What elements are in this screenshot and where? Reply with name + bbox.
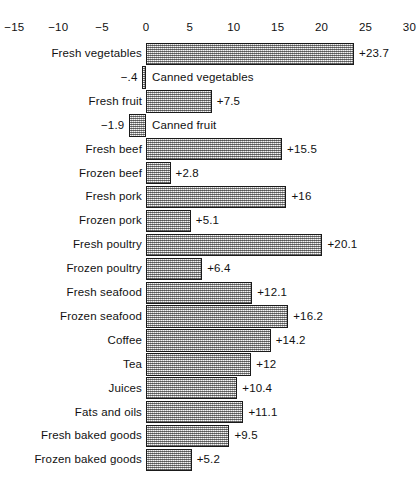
x-axis-tick-labels: −15−10−5051015202530 [0, 20, 420, 36]
category-label: Juices [109, 377, 143, 401]
category-label: Tea [123, 353, 142, 377]
bar [146, 282, 252, 304]
value-label: +23.7 [359, 42, 389, 66]
bar-chart: −15−10−5051015202530 Fresh vegetables+23… [0, 0, 420, 494]
category-label: Fresh beef [86, 138, 142, 162]
category-label: Fresh seafood [67, 281, 142, 305]
bar-row: Frozen pork+5.1 [0, 209, 420, 233]
bar-row: Frozen poultry+6.4 [0, 257, 420, 281]
category-label: Fresh baked goods [41, 424, 142, 448]
value-label: +14.2 [276, 329, 306, 353]
bar [146, 234, 322, 256]
category-label: Fresh pork [86, 185, 142, 209]
bar [146, 162, 171, 184]
bar-row: Tea+12 [0, 353, 420, 377]
category-label: Fats and oils [75, 401, 142, 425]
bar [146, 90, 212, 112]
bar [146, 305, 288, 327]
bar [146, 377, 237, 399]
bar-row: Fresh poultry+20.1 [0, 233, 420, 257]
x-axis-tick-neg5: −5 [95, 20, 109, 34]
x-axis-tick-10: 10 [227, 20, 240, 34]
bar [146, 138, 282, 160]
value-label: +15.5 [287, 138, 317, 162]
value-label: +16.2 [293, 305, 323, 329]
bar-row: Fats and oils+11.1 [0, 401, 420, 425]
value-label: −.4 [121, 66, 138, 90]
x-axis-tick-neg10: −10 [48, 20, 68, 34]
category-label: Frozen pork [79, 209, 142, 233]
bar [146, 449, 192, 471]
value-label: +11.1 [248, 401, 277, 425]
bar-row: Coffee+14.2 [0, 329, 420, 353]
value-label: +9.5 [234, 424, 257, 448]
value-label: +16 [291, 185, 311, 209]
bar-row: Fresh vegetables+23.7 [0, 42, 420, 66]
plot-area: Fresh vegetables+23.7Canned vegetables−.… [0, 42, 420, 472]
bar [146, 329, 271, 351]
value-label: +2.8 [176, 162, 199, 186]
x-axis-tick-15: 15 [271, 20, 284, 34]
value-label: +6.4 [207, 257, 230, 281]
category-label: Canned vegetables [152, 66, 254, 90]
value-label: +20.1 [327, 233, 357, 257]
x-axis-tick-0: 0 [143, 20, 150, 34]
x-axis-tick-30: 30 [403, 20, 416, 34]
value-label: +10.4 [242, 377, 272, 401]
bar-row: Fresh beef+15.5 [0, 138, 420, 162]
bar-row: Frozen beef+2.8 [0, 162, 420, 186]
value-label: +12.1 [257, 281, 287, 305]
bar [142, 66, 146, 88]
bar-row: Fresh fruit+7.5 [0, 90, 420, 114]
category-label: Fresh vegetables [51, 42, 142, 66]
bar [129, 114, 146, 136]
bar [146, 401, 243, 423]
x-axis-tick-5: 5 [187, 20, 194, 34]
value-label: −1.9 [101, 114, 124, 138]
bar-row: Frozen baked goods+5.2 [0, 448, 420, 472]
category-label: Frozen beef [79, 162, 142, 186]
bar-row: Fresh seafood+12.1 [0, 281, 420, 305]
x-axis-tick-20: 20 [315, 20, 328, 34]
value-label: +5.2 [197, 448, 220, 472]
value-label: +7.5 [217, 90, 240, 114]
value-label: +12 [256, 353, 276, 377]
bar [146, 353, 251, 375]
bar-row: Fresh baked goods+9.5 [0, 424, 420, 448]
bar-row: Fresh pork+16 [0, 185, 420, 209]
bar [146, 258, 202, 280]
bar [146, 425, 229, 447]
x-axis-tick-neg15: −15 [4, 20, 24, 34]
x-axis-tick-25: 25 [359, 20, 372, 34]
bar-row: Canned vegetables−.4 [0, 66, 420, 90]
category-label: Frozen baked goods [34, 448, 142, 472]
bar [146, 210, 191, 232]
category-label: Fresh fruit [89, 90, 142, 114]
bar-row: Canned fruit−1.9 [0, 114, 420, 138]
category-label: Coffee [107, 329, 142, 353]
bar [146, 186, 286, 208]
category-label: Canned fruit [152, 114, 216, 138]
category-label: Frozen poultry [66, 257, 142, 281]
bar-row: Juices+10.4 [0, 377, 420, 401]
category-label: Frozen seafood [60, 305, 142, 329]
category-label: Fresh poultry [73, 233, 142, 257]
bar [146, 43, 354, 65]
value-label: +5.1 [196, 209, 219, 233]
bar-row: Frozen seafood+16.2 [0, 305, 420, 329]
